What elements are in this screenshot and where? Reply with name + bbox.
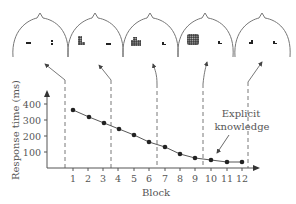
head-stage-1	[13, 13, 68, 57]
x-tick: 5	[131, 173, 137, 184]
x-axis-arrow-icon	[253, 165, 260, 171]
x-tick: 12	[236, 173, 248, 184]
y-tick-400: 400	[23, 99, 41, 110]
explicit-knowledge-annotation: Explicit knowledge	[215, 108, 270, 153]
learning-curve-figure: 400 300 200 100 1 2 3 4 5 6 7 8 9 10 11 …	[0, 0, 296, 204]
x-tick: 9	[192, 173, 198, 184]
y-axis-title: Response time (ms)	[10, 80, 21, 180]
arrow-to-head-3	[153, 64, 157, 84]
annotation-arrow-icon	[217, 135, 229, 153]
x-tick: 2	[85, 173, 91, 184]
arrow-to-head-5	[248, 62, 262, 82]
brain-activity-heads	[13, 13, 290, 57]
head-stage-5	[235, 13, 290, 57]
y-tick-100: 100	[23, 147, 41, 158]
svg-text:Explicit: Explicit	[222, 108, 261, 119]
y-tick-300: 300	[23, 115, 41, 126]
x-tick: 3	[100, 173, 106, 184]
x-tick: 10	[205, 173, 217, 184]
head-stage-2	[68, 13, 123, 57]
x-tick-labels: 1 2 3 4 5 6 7 8 9 10 11 12	[70, 173, 248, 184]
y-tick-200: 200	[23, 131, 41, 142]
y-tick-labels: 400 300 200 100	[23, 99, 41, 158]
x-tick: 11	[221, 173, 233, 184]
head-stage-3	[123, 13, 178, 57]
x-tick: 4	[115, 173, 121, 184]
data-series	[71, 108, 245, 165]
x-axis-title: Block	[142, 187, 171, 198]
svg-text:knowledge: knowledge	[215, 121, 270, 132]
head-stage-4	[178, 13, 233, 57]
arrow-to-head-4	[203, 62, 207, 84]
x-tick: 6	[146, 173, 152, 184]
arrow-to-head-2	[99, 65, 111, 80]
x-tick: 1	[70, 173, 76, 184]
y-axis-arrow-icon	[44, 90, 50, 97]
x-tick: 7	[162, 173, 168, 184]
x-tick: 8	[177, 173, 183, 184]
arrow-to-head-1	[45, 64, 65, 80]
